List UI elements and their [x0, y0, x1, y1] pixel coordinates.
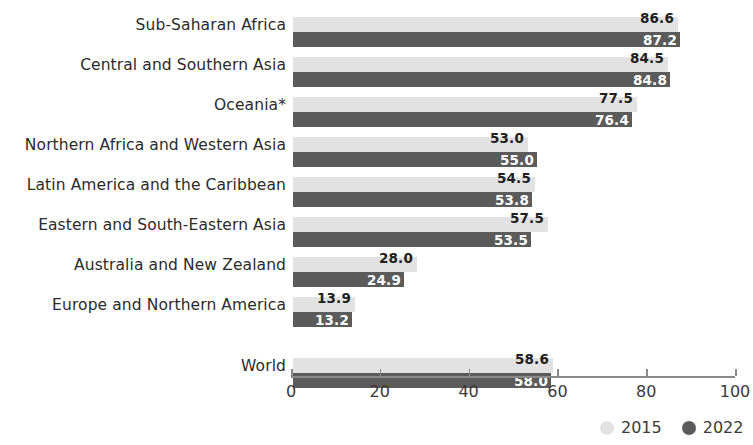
- bar-group: Australia and New Zealand28.024.9: [0, 249, 753, 281]
- legend-label: 2022: [703, 418, 744, 437]
- bar-2022: 87.2: [293, 32, 680, 47]
- x-axis-tick: [735, 369, 737, 376]
- x-axis-tick: [469, 369, 471, 376]
- bar-value-label: 87.2: [643, 32, 677, 48]
- x-axis-tick-label: 60: [547, 382, 567, 401]
- bar-pair: 86.687.2: [293, 17, 680, 47]
- x-axis-tick: [380, 369, 382, 376]
- x-axis-tick-label: 100: [720, 382, 751, 401]
- legend-item-2022[interactable]: 2022: [682, 418, 744, 437]
- category-label: Australia and New Zealand: [74, 256, 286, 274]
- x-axis-tick-label: 20: [370, 382, 390, 401]
- legend-swatch-circle-icon: [600, 421, 614, 435]
- x-axis-tick: [646, 369, 648, 376]
- bar-2022: 55.0: [293, 152, 537, 167]
- bar-group: Latin America and the Caribbean54.553.8: [0, 169, 753, 201]
- x-axis-tick: [557, 369, 559, 376]
- bar-value-label: 28.0: [379, 250, 413, 266]
- category-label: Latin America and the Caribbean: [27, 176, 286, 194]
- bar-2015: 13.9: [293, 297, 355, 312]
- bar-value-label: 77.5: [599, 90, 633, 106]
- bar-value-label: 24.9: [367, 272, 401, 288]
- bar-pair: 57.553.5: [293, 217, 548, 247]
- bar-value-label: 57.5: [510, 210, 544, 226]
- x-axis-tick-label: 40: [458, 382, 478, 401]
- legend-label: 2015: [621, 418, 662, 437]
- bar-2015: 86.6: [293, 17, 678, 32]
- horizontal-bar-chart: Sub-Saharan Africa86.687.2Central and So…: [0, 0, 753, 445]
- bar-2015: 84.5: [293, 57, 668, 72]
- bar-group: Eastern and South-Eastern Asia57.553.5: [0, 209, 753, 241]
- bar-2015: 54.5: [293, 177, 535, 192]
- bar-group: Sub-Saharan Africa86.687.2: [0, 9, 753, 41]
- bar-value-label: 84.8: [633, 72, 667, 88]
- category-label: Europe and Northern America: [52, 296, 286, 314]
- bar-group: Europe and Northern America13.913.2: [0, 289, 753, 321]
- bar-value-label: 84.5: [630, 50, 664, 66]
- bar-2022: 53.5: [293, 232, 531, 247]
- category-label: Oceania*: [214, 96, 286, 114]
- bar-value-label: 86.6: [640, 10, 674, 26]
- bar-2015: 53.0: [293, 137, 528, 152]
- bar-2022: 53.8: [293, 192, 532, 207]
- bar-pair: 13.913.2: [293, 297, 355, 327]
- bar-2015: 57.5: [293, 217, 548, 232]
- bar-group: Oceania*77.576.4: [0, 89, 753, 121]
- bar-value-label: 58.6: [515, 351, 549, 367]
- bar-2015: 77.5: [293, 97, 637, 112]
- bar-value-label: 58.0: [514, 373, 548, 389]
- legend-item-2015[interactable]: 2015: [600, 418, 662, 437]
- bar-value-label: 13.9: [317, 290, 351, 306]
- bar-pair: 58.658.0: [293, 358, 553, 388]
- x-axis-tick-label: 80: [636, 382, 656, 401]
- legend-swatch-circle-icon: [682, 421, 696, 435]
- bar-pair: 84.584.8: [293, 57, 670, 87]
- bar-value-label: 53.0: [490, 130, 524, 146]
- bar-2022: 84.8: [293, 72, 670, 87]
- x-axis-tick: [291, 369, 293, 376]
- bar-group: Northern Africa and Western Asia53.055.0: [0, 129, 753, 161]
- bar-value-label: 53.8: [495, 192, 529, 208]
- bar-pair: 28.024.9: [293, 257, 417, 287]
- category-label: Northern Africa and Western Asia: [25, 136, 286, 154]
- plot-area: Sub-Saharan Africa86.687.2Central and So…: [0, 0, 753, 445]
- bar-pair: 77.576.4: [293, 97, 637, 127]
- category-label: Eastern and South-Eastern Asia: [38, 216, 286, 234]
- bar-2022: 13.2: [293, 312, 352, 327]
- bar-value-label: 54.5: [497, 170, 531, 186]
- category-label: World: [241, 357, 286, 375]
- category-label: Central and Southern Asia: [80, 56, 286, 74]
- bar-pair: 54.553.8: [293, 177, 535, 207]
- bar-value-label: 76.4: [595, 112, 629, 128]
- chart-legend: 20152022: [600, 418, 743, 437]
- bar-2015: 58.6: [293, 358, 553, 373]
- bar-2022: 24.9: [293, 272, 404, 287]
- bar-value-label: 13.2: [315, 312, 349, 328]
- x-axis-tick-label: 0: [286, 382, 296, 401]
- x-axis: [291, 376, 735, 378]
- category-label: Sub-Saharan Africa: [136, 16, 286, 34]
- bar-pair: 53.055.0: [293, 137, 537, 167]
- bar-value-label: 55.0: [500, 152, 534, 168]
- bar-value-label: 53.5: [494, 232, 528, 248]
- bar-group: Central and Southern Asia84.584.8: [0, 49, 753, 81]
- bar-2015: 28.0: [293, 257, 417, 272]
- bar-2022: 76.4: [293, 112, 632, 127]
